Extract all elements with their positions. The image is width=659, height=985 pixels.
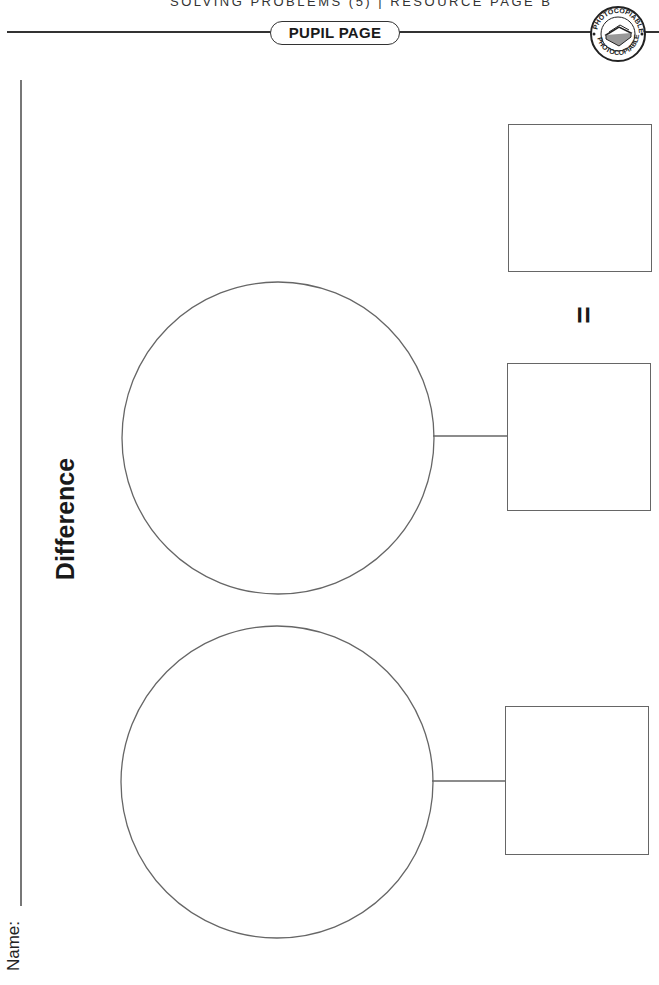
answer-box-bottom[interactable] xyxy=(505,706,649,855)
answer-box-top[interactable] xyxy=(507,363,651,511)
result-box[interactable] xyxy=(508,124,652,272)
equals-sign: = xyxy=(569,306,599,324)
circle-bottom[interactable] xyxy=(121,626,433,938)
circle-top[interactable] xyxy=(122,282,434,594)
